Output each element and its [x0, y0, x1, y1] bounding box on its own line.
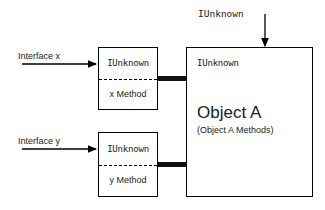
interface-y-top-cell: IUnknown: [99, 133, 157, 165]
interface-x-method-label: x Method: [109, 89, 146, 99]
interface-x-top-cell: IUnknown: [99, 48, 157, 79]
interface-x-arrow-label: Interface x: [18, 51, 60, 61]
interface-y-iunknown-label: IUnknown: [107, 144, 149, 154]
interface-x-iunknown-label: IUnknown: [107, 58, 149, 68]
interface-x-box: IUnknown x Method: [98, 47, 158, 110]
interface-y-bottom-cell: y Method: [99, 165, 157, 197]
interface-y-box: IUnknown y Method: [98, 132, 158, 197]
object-a-box: IUnknown Object A (Object A Methods): [186, 47, 313, 197]
interface-y-arrow-label: Interface y: [18, 136, 60, 146]
object-a-subtitle: (Object A Methods): [197, 125, 274, 135]
object-a-title: Object A: [197, 103, 261, 123]
interface-x-bottom-cell: x Method: [99, 79, 157, 110]
object-a-iunknown-label: IUnknown: [197, 58, 239, 68]
top-iunknown-label: IUnknown: [198, 8, 244, 19]
connector-interface-x: [158, 76, 188, 81]
diagram-canvas: IUnknown Interface x Interface y IUnknow…: [0, 0, 325, 210]
connector-interface-y: [158, 162, 188, 167]
interface-y-method-label: y Method: [109, 175, 146, 185]
